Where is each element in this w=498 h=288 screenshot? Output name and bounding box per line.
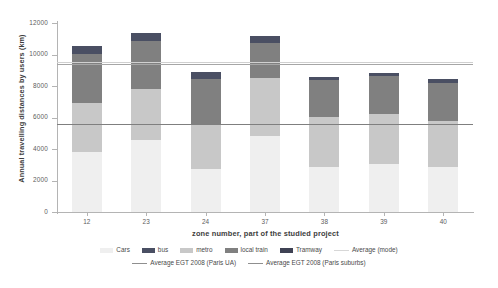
x-tick-mark xyxy=(324,212,325,216)
x-tick-label: 39 xyxy=(364,219,404,225)
y-tick-label: 10000 xyxy=(0,51,48,57)
legend-line-icon xyxy=(334,250,349,251)
legend-line-icon xyxy=(132,263,147,264)
bar-segment[interactable] xyxy=(428,83,458,121)
bar-stack[interactable] xyxy=(131,23,161,212)
legend-line-icon xyxy=(248,263,263,264)
bar-segment[interactable] xyxy=(369,73,399,76)
y-tick-label: 6000 xyxy=(0,114,48,120)
bar-segment[interactable] xyxy=(72,103,102,152)
legend-swatch-icon xyxy=(280,248,293,253)
bar-segment[interactable] xyxy=(72,54,102,104)
x-tick-label: 37 xyxy=(245,219,285,225)
x-tick-label: 40 xyxy=(423,219,463,225)
bar-segment[interactable] xyxy=(250,78,280,136)
bar-stack[interactable] xyxy=(309,23,339,212)
legend-item[interactable]: bus xyxy=(142,247,168,253)
legend-label: Tramway xyxy=(296,247,322,253)
bar-segment[interactable] xyxy=(428,121,458,167)
y-tick-mark xyxy=(52,212,57,213)
legend-label: metro xyxy=(196,247,212,253)
bar-segment[interactable] xyxy=(428,79,458,83)
bar-stack[interactable] xyxy=(72,23,102,212)
bar-stack[interactable] xyxy=(369,23,399,212)
bar-segment[interactable] xyxy=(369,164,399,212)
legend-swatch-icon xyxy=(100,248,113,253)
bar-segment[interactable] xyxy=(369,114,399,164)
legend-row-secondary: Average EGT 2008 (Paris UA)Average EGT 2… xyxy=(0,257,498,270)
bar-stack[interactable] xyxy=(250,23,280,212)
bar-segment[interactable] xyxy=(191,79,221,124)
bar-segment[interactable] xyxy=(428,167,458,212)
chart-legend: Carsbusmetrolocal trainTramwayAverage (m… xyxy=(0,244,498,270)
legend-item[interactable]: metro xyxy=(180,247,212,253)
reference-line xyxy=(57,124,473,125)
legend-swatch-icon xyxy=(225,248,238,253)
legend-swatch-icon xyxy=(142,248,155,253)
bar-stack[interactable] xyxy=(428,23,458,212)
bar-segment[interactable] xyxy=(131,41,161,89)
legend-item[interactable]: Average EGT 2008 (Paris UA) xyxy=(132,260,236,266)
legend-label: bus xyxy=(158,247,168,253)
bar-segment[interactable] xyxy=(191,124,221,170)
x-tick-label: 12 xyxy=(67,219,107,225)
bar-segment[interactable] xyxy=(191,169,221,212)
x-tick-mark xyxy=(443,212,444,216)
reference-line xyxy=(57,64,473,65)
y-tick-label: 8000 xyxy=(0,83,48,89)
legend-label: Average (mode) xyxy=(352,247,398,253)
bar-segment[interactable] xyxy=(250,136,280,212)
legend-swatch-icon xyxy=(180,248,193,253)
y-tick-label: 4000 xyxy=(0,146,48,152)
bar-segment[interactable] xyxy=(250,43,280,78)
bar-segment[interactable] xyxy=(72,152,102,212)
chart-root: Annual travelling distances by users (km… xyxy=(0,0,498,288)
legend-item[interactable]: Cars xyxy=(100,247,130,253)
x-tick-label: 23 xyxy=(126,219,166,225)
x-tick-mark xyxy=(87,212,88,216)
legend-label: Cars xyxy=(116,247,130,253)
bar-segment[interactable] xyxy=(131,33,161,41)
y-tick-label: 0 xyxy=(0,209,48,215)
bar-segment[interactable] xyxy=(309,80,339,117)
plot-area xyxy=(57,23,473,212)
legend-item[interactable]: Average EGT 2008 (Paris suburbs) xyxy=(248,260,366,266)
bar-segment[interactable] xyxy=(191,72,221,79)
bar-segment[interactable] xyxy=(369,76,399,114)
bar-segment[interactable] xyxy=(309,77,339,80)
x-tick-mark xyxy=(384,212,385,216)
bar-stack[interactable] xyxy=(191,23,221,212)
x-tick-label: 24 xyxy=(186,219,226,225)
y-tick-label: 12000 xyxy=(0,20,48,26)
legend-item[interactable]: local train xyxy=(225,247,268,253)
legend-label: Average EGT 2008 (Paris UA) xyxy=(150,260,236,266)
x-tick-mark xyxy=(206,212,207,216)
legend-row-primary: Carsbusmetrolocal trainTramwayAverage (m… xyxy=(0,244,498,257)
bar-segment[interactable] xyxy=(72,46,102,54)
x-tick-mark xyxy=(146,212,147,216)
bar-segment[interactable] xyxy=(131,140,161,212)
bar-segment[interactable] xyxy=(309,167,339,212)
legend-label: local train xyxy=(241,247,268,253)
bar-segment[interactable] xyxy=(250,36,280,43)
y-tick-label: 2000 xyxy=(0,177,48,183)
legend-item[interactable]: Average (mode) xyxy=(334,247,398,253)
legend-item[interactable]: Tramway xyxy=(280,247,322,253)
legend-label: Average EGT 2008 (Paris suburbs) xyxy=(266,260,366,266)
x-tick-label: 38 xyxy=(304,219,344,225)
x-tick-mark xyxy=(265,212,266,216)
x-axis-title: zone number, part of the studied project xyxy=(57,229,474,238)
bar-segment[interactable] xyxy=(131,89,161,140)
